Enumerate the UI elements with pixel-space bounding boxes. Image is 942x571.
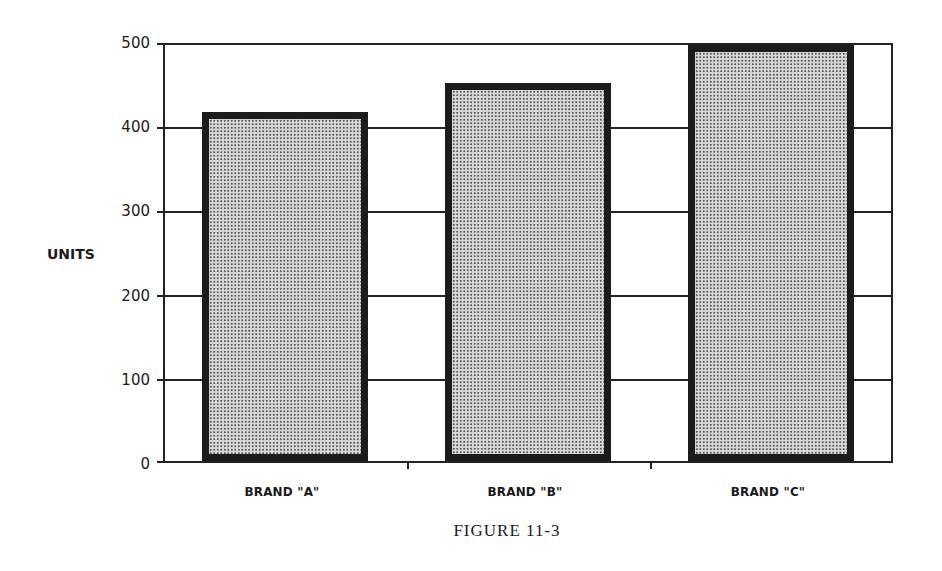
bar-brand-c [688, 45, 854, 461]
bar-brand-a [202, 112, 368, 461]
x-tick-2 [650, 461, 652, 469]
y-axis-title: UNITS [47, 246, 95, 262]
y-tick-400 [157, 127, 165, 129]
bar-brand-b [445, 83, 611, 461]
y-tick-100 [157, 379, 165, 381]
x-tick-1 [407, 461, 409, 469]
y-tick-label-200: 200 [90, 287, 150, 305]
y-tick-label-100: 100 [90, 371, 150, 389]
y-tick-300 [157, 211, 165, 213]
y-tick-200 [157, 295, 165, 297]
x-label-brand-c: BRAND "C" [694, 484, 841, 499]
plot-area [163, 43, 893, 463]
y-tick-label-400: 400 [90, 118, 150, 136]
x-label-brand-a: BRAND "A" [208, 484, 355, 499]
y-tick-label-0: 0 [90, 455, 150, 473]
y-tick-0 [157, 461, 165, 463]
x-label-brand-b: BRAND "B" [451, 484, 598, 499]
y-tick-label-500: 500 [90, 34, 150, 52]
y-tick-500 [157, 43, 165, 45]
figure-caption: FIGURE 11-3 [0, 521, 942, 541]
y-tick-label-300: 300 [90, 202, 150, 220]
